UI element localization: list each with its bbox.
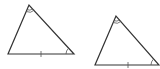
- congruent-triangles-diagram: [0, 0, 160, 69]
- triangle-2-outline: [95, 16, 159, 65]
- triangle-2: [95, 16, 159, 68]
- triangle-1-outline: [8, 5, 74, 54]
- triangle-2-bottom-right-angle-arc: [151, 59, 153, 65]
- triangle-1: [8, 5, 74, 57]
- triangle-2-apex-angle-arc-outer: [113, 21, 121, 23]
- triangle-1-bottom-right-angle-arc: [66, 48, 68, 54]
